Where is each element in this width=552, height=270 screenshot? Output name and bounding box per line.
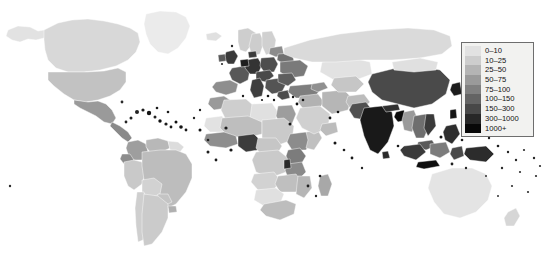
legend-row[interactable]: 25–50 (465, 65, 530, 75)
legend-label: 100–150 (481, 94, 515, 104)
legend-swatch (465, 85, 481, 95)
legend-label: 25–50 (481, 65, 506, 75)
legend-row[interactable]: 1000+ (465, 124, 530, 134)
legend-swatch (465, 114, 481, 124)
legend-row[interactable]: 50–75 (465, 75, 530, 85)
legend-row[interactable]: 300–1000 (465, 114, 530, 124)
legend-label: 10–25 (481, 56, 506, 66)
legend-label: 0–10 (481, 46, 502, 56)
legend-swatch (465, 56, 481, 66)
map-figure: 0–10 10–25 25–50 50–75 75–100 100–150 15… (0, 0, 552, 270)
legend-row[interactable]: 150–300 (465, 104, 530, 114)
legend-swatch (465, 94, 481, 104)
legend-label: 150–300 (481, 104, 515, 114)
region-rwanda-burundi[interactable] (284, 159, 291, 169)
legend-label: 300–1000 (481, 114, 519, 124)
region-benelux[interactable] (240, 59, 249, 67)
legend-label: 50–75 (481, 75, 506, 85)
legend-row[interactable]: 75–100 (465, 85, 530, 95)
region-poland[interactable] (260, 57, 278, 72)
legend: 0–10 10–25 25–50 50–75 75–100 100–150 15… (461, 42, 534, 137)
region-ireland[interactable] (218, 54, 226, 62)
legend-swatch (465, 124, 481, 134)
legend-row[interactable]: 10–25 (465, 56, 530, 66)
legend-label: 1000+ (481, 124, 506, 134)
legend-swatch (465, 104, 481, 114)
region-denmark[interactable] (248, 51, 257, 58)
region-taiwan[interactable] (450, 109, 457, 119)
legend-swatch (465, 65, 481, 75)
legend-swatch (465, 46, 481, 56)
region-angola[interactable] (251, 172, 280, 190)
legend-swatch (465, 75, 481, 85)
legend-row[interactable]: 0–10 (465, 46, 530, 56)
legend-label: 75–100 (481, 85, 510, 95)
region-uruguay[interactable] (168, 206, 177, 213)
legend-row[interactable]: 100–150 (465, 94, 530, 104)
